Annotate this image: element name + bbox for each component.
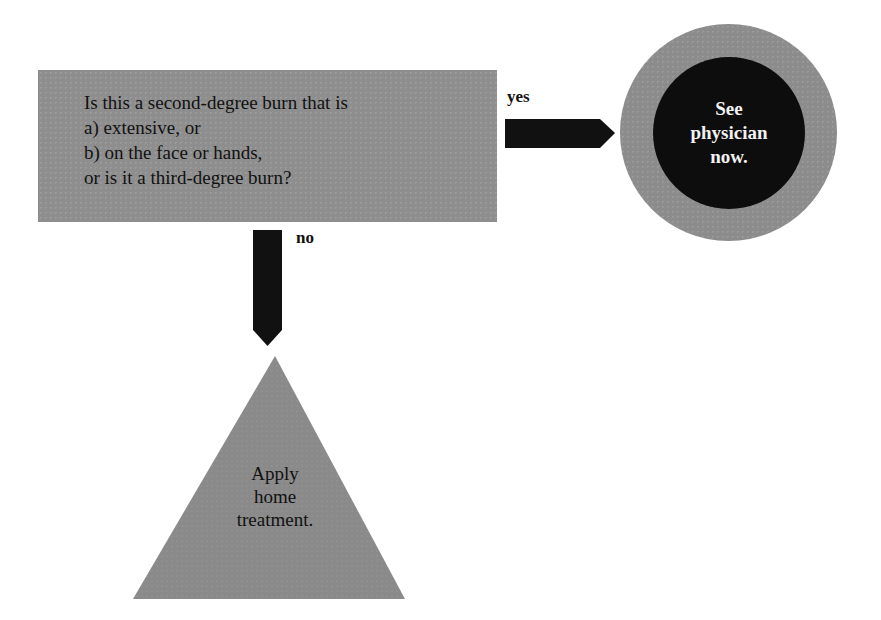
triangle-line-3: treatment. [175, 508, 375, 531]
question-line-3: b) on the face or hands, [84, 140, 497, 165]
outcome-apply-home-treatment: Apply home treatment. [175, 462, 375, 531]
question-line-4: or is it a third-degree burn? [84, 165, 497, 190]
question-line-1: Is this a second-degree burn that is [84, 90, 497, 115]
yes-arrow-icon [505, 118, 617, 150]
yes-label: yes [507, 87, 530, 107]
outcome-line-3: now. [710, 145, 748, 169]
no-arrow-icon [252, 230, 284, 348]
triangle-line-2: home [175, 485, 375, 508]
outcome-circle-see-physician: See physician now. [653, 57, 805, 209]
outcome-line-1: See [715, 97, 742, 121]
outcome-line-2: physician [690, 121, 767, 145]
question-box: Is this a second-degree burn that is a) … [38, 70, 497, 222]
question-line-2: a) extensive, or [84, 115, 497, 140]
triangle-line-1: Apply [175, 462, 375, 485]
no-label: no [296, 228, 314, 248]
